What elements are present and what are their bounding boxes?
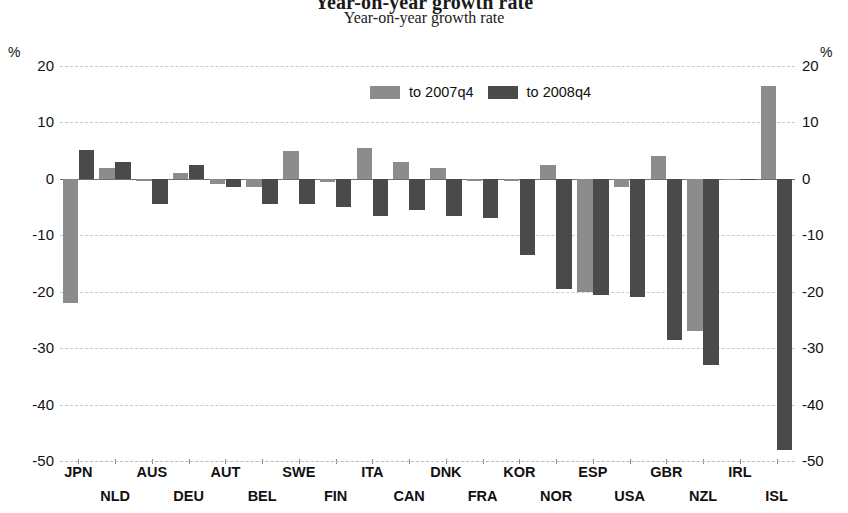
bar-nzl-2008q4 [703, 179, 719, 365]
y-axis-tick-label-right: 10 [802, 113, 846, 130]
bar-kor-2007q4 [504, 179, 520, 181]
bar-esp-2008q4 [593, 179, 609, 295]
x-axis-label-can: CAN [393, 488, 424, 504]
x-axis-label-aus: AUS [137, 464, 168, 480]
x-axis-label-fra: FRA [468, 488, 498, 504]
y-axis-tick-label-right: 20 [802, 57, 846, 74]
x-axis-label-esp: ESP [578, 464, 607, 480]
bar-nld-2007q4 [99, 168, 115, 179]
bar-fra-2007q4 [467, 179, 483, 181]
bar-usa-2007q4 [614, 179, 630, 187]
gridline [60, 66, 795, 67]
bar-swe-2008q4 [299, 179, 315, 204]
bar-fin-2007q4 [320, 179, 336, 182]
y-axis-tick-label-left: -50 [10, 452, 54, 469]
y-axis-tick-label-left: -20 [10, 283, 54, 300]
bar-esp-2007q4 [577, 179, 593, 292]
plot-area [60, 66, 795, 461]
y-axis-tick-label-left: -30 [10, 339, 54, 356]
x-axis-label-irl: IRL [728, 464, 751, 480]
x-axis-label-deu: DEU [173, 488, 204, 504]
bar-dnk-2007q4 [430, 168, 446, 179]
bar-irl-2007q4 [724, 179, 740, 180]
x-axis-label-aut: AUT [210, 464, 240, 480]
bar-deu-2007q4 [173, 173, 189, 179]
x-axis-baseline [60, 461, 795, 462]
x-axis-label-jpn: JPN [64, 464, 92, 480]
y-axis-tick-label-left: 10 [10, 113, 54, 130]
bar-isl-2008q4 [777, 179, 793, 450]
gridline [60, 235, 795, 236]
bar-nor-2008q4 [556, 179, 572, 289]
x-axis-label-nld: NLD [100, 488, 130, 504]
y-axis-tick-label-left: -40 [10, 396, 54, 413]
bar-gbr-2007q4 [651, 156, 667, 179]
x-axis-label-dnk: DNK [430, 464, 461, 480]
bar-isl-2007q4 [761, 86, 777, 179]
bar-gbr-2008q4 [667, 179, 683, 340]
bar-nld-2008q4 [115, 162, 131, 179]
x-axis-label-nzl: NZL [689, 488, 717, 504]
bar-jpn-2008q4 [79, 150, 95, 179]
x-axis-label-swe: SWE [282, 464, 315, 480]
gridline [60, 292, 795, 293]
bar-can-2007q4 [393, 162, 409, 179]
y-axis-tick-label-right: -20 [802, 283, 846, 300]
bar-aus-2008q4 [152, 179, 168, 204]
bar-deu-2008q4 [189, 165, 205, 179]
gridline [60, 405, 795, 406]
x-axis-label-nor: NOR [540, 488, 572, 504]
bar-bel-2007q4 [246, 179, 262, 187]
y-axis-tick-label-right: -50 [802, 452, 846, 469]
zero-line [60, 179, 795, 180]
gridline [60, 348, 795, 349]
bar-swe-2007q4 [283, 151, 299, 179]
y-axis-tick-label-right: 0 [802, 170, 846, 187]
bar-usa-2008q4 [630, 179, 646, 298]
x-axis-label-bel: BEL [248, 488, 277, 504]
y-axis-tick-label-left: 20 [10, 57, 54, 74]
bar-nor-2007q4 [540, 165, 556, 179]
bar-jpn-2007q4 [63, 179, 79, 303]
x-axis-label-isl: ISL [765, 488, 788, 504]
chart-container: Year-on-year growth rate Year-on-year gr… [0, 0, 848, 513]
x-axis-label-fin: FIN [324, 488, 347, 504]
x-axis-label-usa: USA [614, 488, 645, 504]
y-axis-tick-label-right: -40 [802, 396, 846, 413]
bar-ita-2007q4 [357, 148, 373, 179]
bar-bel-2008q4 [262, 179, 278, 204]
chart-subtitle: Year-on-year growth rate [0, 9, 848, 27]
bar-aut-2007q4 [210, 179, 226, 185]
bar-irl-2008q4 [740, 179, 756, 180]
y-axis-tick-label-right: -30 [802, 339, 846, 356]
bar-nzl-2007q4 [687, 179, 703, 331]
y-axis-tick-label-right: -10 [802, 226, 846, 243]
bar-aus-2007q4 [136, 179, 152, 181]
bar-kor-2008q4 [520, 179, 536, 255]
y-axis-tick-label-left: 0 [10, 170, 54, 187]
gridline [60, 122, 795, 123]
x-axis-label-kor: KOR [503, 464, 535, 480]
bar-dnk-2008q4 [446, 179, 462, 216]
x-axis-label-gbr: GBR [650, 464, 682, 480]
bar-fra-2008q4 [483, 179, 499, 219]
bar-aut-2008q4 [226, 179, 242, 187]
y-axis-tick-label-left: -10 [10, 226, 54, 243]
bar-can-2008q4 [409, 179, 425, 210]
bar-fin-2008q4 [336, 179, 352, 207]
bar-ita-2008q4 [373, 179, 389, 216]
x-axis-label-ita: ITA [361, 464, 383, 480]
